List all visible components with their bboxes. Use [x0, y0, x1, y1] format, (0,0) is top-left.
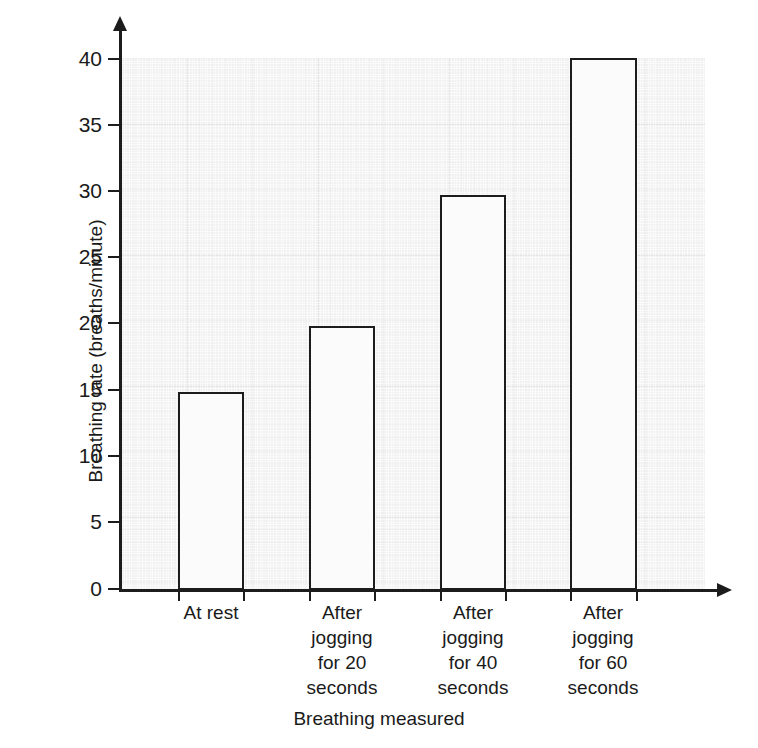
x-axis-line	[119, 589, 724, 592]
y-tick-label-40: 40	[60, 48, 102, 69]
y-tick-30	[108, 190, 121, 192]
y-tick-10	[108, 455, 121, 457]
y-tick-20	[108, 322, 121, 324]
bar-at-rest	[178, 392, 244, 590]
bar-after-jogging-20-seconds	[309, 326, 375, 590]
y-axis-arrow-icon	[113, 16, 127, 31]
y-tick-15	[108, 389, 121, 391]
bar-after-jogging-60-seconds	[570, 58, 637, 590]
x-category-label-at-rest: At rest	[146, 600, 276, 625]
y-tick-0	[108, 588, 121, 590]
y-tick-25	[108, 256, 121, 258]
y-tick-40	[108, 58, 121, 60]
y-tick-35	[108, 124, 121, 126]
y-tick-label-35: 35	[60, 114, 102, 135]
y-axis-line	[119, 26, 122, 592]
y-axis-title: Breathing rate (breaths/minute)	[85, 161, 107, 541]
bar-after-jogging-40-seconds	[440, 195, 506, 590]
y-tick-5	[108, 521, 121, 523]
x-axis-arrow-icon	[717, 583, 732, 597]
y-tick-label-0: 0	[60, 578, 102, 599]
x-axis-title: Breathing measured	[0, 708, 758, 730]
bar-chart: 40 35 30 25 20 15 10 5 0 At rest After j…	[0, 0, 758, 748]
x-category-label-after-jogging-60-seconds: After jogging for 60 seconds	[538, 600, 668, 700]
x-category-label-after-jogging-20-seconds: After jogging for 20 seconds	[277, 600, 407, 700]
x-category-label-after-jogging-40-seconds: After jogging for 40 seconds	[408, 600, 538, 700]
